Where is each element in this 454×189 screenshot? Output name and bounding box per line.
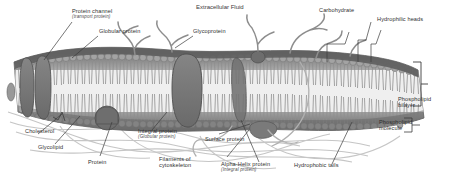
label-protein-line1: Protein bbox=[88, 160, 106, 166]
label-integral-protein-line2: (Globular protein) bbox=[138, 135, 177, 140]
membrane-diagram: Extracellular Fluid Protein channel (tra… bbox=[0, 0, 454, 189]
label-protein-channel: Protein channel (transport protein) bbox=[72, 9, 112, 20]
globular-protein bbox=[95, 106, 119, 130]
label-globular-protein: Globular protein bbox=[99, 29, 140, 35]
label-surface-protein-line1: Surface protein bbox=[205, 137, 244, 143]
label-alpha-helix-line2: (Integral protein) bbox=[221, 168, 270, 173]
label-hydrophobic-tails-line1: Hydrophobic tails bbox=[294, 163, 339, 169]
label-globular-protein-line1: Globular protein bbox=[99, 29, 140, 35]
label-filaments-line2: cytoskeleton bbox=[159, 163, 191, 169]
label-protein-channel-line2: (transport protein) bbox=[72, 15, 112, 20]
label-alpha-helix-protein: Alpha-Helix protein (Integral protein) bbox=[221, 162, 270, 173]
label-phospholipid-molecule: Phospholipid molecule bbox=[379, 120, 412, 132]
label-glycolipid-line1: Glycolipid bbox=[38, 145, 63, 151]
label-glycoprotein: Glycoprotein bbox=[193, 29, 226, 35]
label-hydrophobic-tails: Hydrophobic tails bbox=[294, 163, 339, 169]
label-phospholipid-bilayer: Phospholipid bilayer bbox=[398, 97, 431, 109]
label-hydrophilic-heads: Hydrophilic heads bbox=[377, 17, 423, 23]
label-carbohydrate: Carbohydrate bbox=[319, 8, 354, 14]
label-cholesterol-line1: Cholesterol bbox=[25, 129, 54, 135]
label-surface-protein: Surface protein bbox=[205, 137, 244, 143]
figure-title: Extracellular Fluid bbox=[196, 4, 244, 10]
glycoprotein-body bbox=[251, 51, 265, 63]
label-cholesterol: Cholesterol bbox=[25, 129, 54, 135]
label-phospholipid-bilayer-line2: bilayer bbox=[398, 103, 431, 109]
label-filaments-of-cytoskeleton: Filaments of cytoskeleton bbox=[159, 157, 191, 169]
label-integral-protein: Integral protein (Globular protein) bbox=[138, 129, 177, 140]
integral-protein-center bbox=[172, 54, 202, 127]
label-glycoprotein-line1: Glycoprotein bbox=[193, 29, 226, 35]
label-glycolipid: Glycolipid bbox=[38, 145, 63, 151]
label-phospholipid-molecule-line2: molecule bbox=[379, 126, 412, 132]
label-protein: Protein bbox=[88, 160, 106, 166]
label-carbohydrate-line1: Carbohydrate bbox=[319, 8, 354, 14]
cholesterol-molecule bbox=[7, 83, 15, 101]
label-hydrophilic-heads-line1: Hydrophilic heads bbox=[377, 17, 423, 23]
